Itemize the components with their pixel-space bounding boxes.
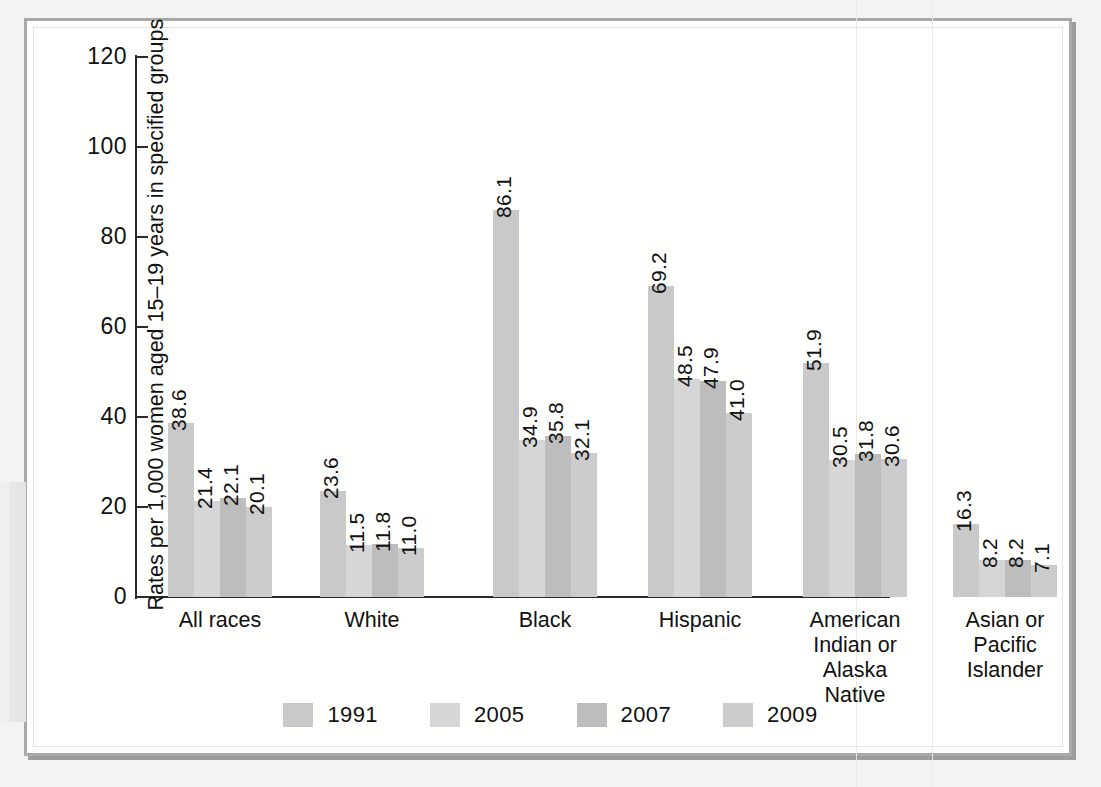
bar-fill [700,381,726,597]
legend-label: 2007 [621,702,672,728]
bar[interactable]: 22.1 [220,57,246,597]
legend-swatch [577,703,607,727]
bar[interactable]: 31.8 [855,57,881,597]
bar-value-label: 47.9 [699,347,723,389]
legend-swatch [430,703,460,727]
grouped-bar-chart: 020406080100120 Rates per 1,000 women ag… [0,0,1101,787]
bar[interactable]: 48.5 [674,57,700,597]
bar-value-label: 38.6 [167,389,191,431]
bar-fill [953,524,979,597]
y-tick-label-100: 100 [87,133,127,160]
bar[interactable]: 8.2 [979,57,1005,597]
legend-item[interactable]: 2009 [723,702,818,728]
legend-label: 2009 [767,702,818,728]
legend-swatch [283,703,313,727]
bar-fill [545,436,571,597]
bar-value-label: 11.8 [371,511,395,552]
bar[interactable]: 38.6 [168,57,194,597]
bar-group: 51.930.531.830.6 [803,57,907,597]
bar[interactable]: 34.9 [519,57,545,597]
bar-group: 38.621.422.120.1 [168,57,272,597]
chart-legend: 1991200520072009 [0,702,1101,728]
bar-fill [246,507,272,597]
bar[interactable]: 8.2 [1005,57,1031,597]
bar-fill [881,459,907,597]
bar-value-label: 34.9 [518,406,542,448]
bar[interactable]: 11.5 [346,57,372,597]
y-axis-label: Rates per 1,000 women aged 15–19 years i… [144,51,169,611]
legend-label: 1991 [327,702,378,728]
bar-value-label: 86.1 [492,175,516,217]
legend-item[interactable]: 2005 [430,702,525,728]
bar[interactable]: 51.9 [803,57,829,597]
bar-value-label: 11.0 [397,515,421,556]
bar[interactable]: 20.1 [246,57,272,597]
bar-group: 16.38.28.27.1 [953,57,1057,597]
bar-fill [855,454,881,597]
bar-fill [194,501,220,597]
bar[interactable]: 41.0 [726,57,752,597]
bar[interactable]: 23.6 [320,57,346,597]
bar-value-label: 21.4 [193,467,217,509]
bar[interactable]: 11.8 [372,57,398,597]
bar-value-label: 48.5 [673,345,697,387]
bar-value-label: 8.2 [978,538,1002,568]
bar-fill [829,460,855,597]
bar-fill [571,453,597,597]
bar-fill [519,440,545,597]
bar[interactable]: 11.0 [398,57,424,597]
category-label: Asian or Pacific Islander [905,608,1101,683]
bar[interactable]: 86.1 [493,57,519,597]
bar-value-label: 31.8 [854,420,878,462]
bar-value-label: 20.1 [245,472,269,514]
bar-value-label: 22.1 [219,463,243,505]
bar-value-label: 11.5 [345,513,369,554]
bar-value-label: 7.1 [1030,543,1054,573]
bar-fill [648,286,674,597]
bar[interactable]: 7.1 [1031,57,1057,597]
bar[interactable]: 30.5 [829,57,855,597]
bar[interactable]: 47.9 [700,57,726,597]
bar[interactable]: 16.3 [953,57,979,597]
bar-value-label: 30.5 [828,426,852,468]
bar-value-label: 23.6 [319,457,343,499]
y-tick-label-60: 60 [100,313,127,340]
bar-value-label: 32.1 [570,418,594,460]
bar-value-label: 16.3 [952,490,976,532]
bar-value-label: 35.8 [544,402,568,444]
bar-value-label: 8.2 [1004,538,1028,568]
legend-swatch [723,703,753,727]
legend-item[interactable]: 2007 [577,702,672,728]
y-tick-label-0: 0 [114,583,127,610]
bar-group: 69.248.547.941.0 [648,57,752,597]
bar[interactable]: 30.6 [881,57,907,597]
bar-value-label: 69.2 [647,252,671,294]
y-axis-tick-labels: 020406080100120 [55,0,127,787]
bar-value-label: 41.0 [725,378,749,420]
bar-fill [493,210,519,597]
bar-fill [220,498,246,597]
bar[interactable]: 32.1 [571,57,597,597]
bar-fill [726,413,752,598]
bar-fill [674,379,700,597]
y-tick-label-120: 120 [87,43,127,70]
bar[interactable]: 35.8 [545,57,571,597]
legend-label: 2005 [474,702,525,728]
bar-value-label: 51.9 [802,329,826,371]
bar-group: 23.611.511.811.0 [320,57,424,597]
bar[interactable]: 21.4 [194,57,220,597]
bar-fill [168,423,194,597]
bar[interactable]: 69.2 [648,57,674,597]
bar-fill [346,545,372,597]
bar-group: 86.134.935.832.1 [493,57,597,597]
bar-fill [803,363,829,597]
bar-value-label: 30.6 [880,425,904,467]
y-tick-label-40: 40 [100,403,127,430]
legend-item[interactable]: 1991 [283,702,378,728]
category-label: White [272,608,472,633]
bar-fill [320,491,346,597]
y-tick-label-80: 80 [100,223,127,250]
y-tick-label-20: 20 [100,493,127,520]
